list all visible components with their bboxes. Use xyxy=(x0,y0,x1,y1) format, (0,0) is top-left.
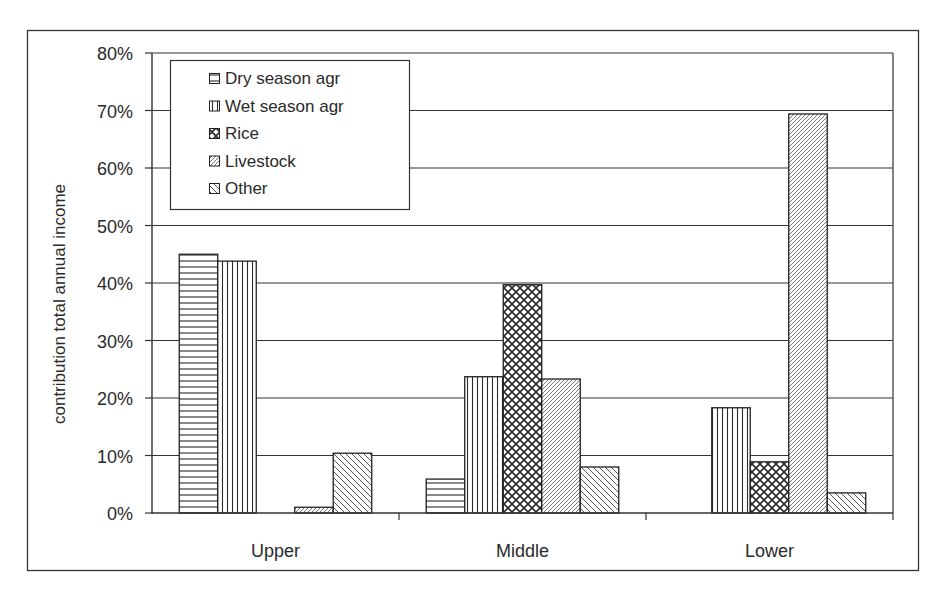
bar-rice-lower xyxy=(750,462,789,513)
y-tick-label: 70% xyxy=(97,102,133,122)
x-category-labels: UpperMiddleLower xyxy=(251,541,794,561)
y-axis-title: contribution total annual income xyxy=(50,184,69,424)
bar-livestock-middle xyxy=(542,379,581,513)
bar-wet-season-agr-middle xyxy=(465,377,504,513)
legend-label: Dry season agr xyxy=(225,69,341,88)
forward-diagonal-swatch-icon xyxy=(210,156,220,166)
y-tick-label: 20% xyxy=(97,389,133,409)
bar-livestock-lower xyxy=(789,114,828,513)
x-category-label: Upper xyxy=(251,541,300,561)
chart-container: 0%10%20%30%40%50%60%70%80% UpperMiddleLo… xyxy=(0,0,940,598)
legend-label: Rice xyxy=(225,124,259,143)
bar-other-lower xyxy=(827,493,866,513)
y-tick-label: 0% xyxy=(107,504,133,524)
legend-label: Wet season agr xyxy=(225,97,344,116)
crosshatch-swatch-icon xyxy=(210,129,220,139)
y-tick-label: 40% xyxy=(97,274,133,294)
legend-label: Other xyxy=(225,179,268,198)
bar-wet-season-agr-lower xyxy=(712,408,751,513)
y-tick-label: 30% xyxy=(97,332,133,352)
backward-diagonal-swatch-icon xyxy=(210,184,220,194)
y-tick-label: 10% xyxy=(97,447,133,467)
bar-chart: 0%10%20%30%40%50%60%70%80% UpperMiddleLo… xyxy=(0,0,940,598)
y-tick-labels: 0%10%20%30%40%50%60%70%80% xyxy=(97,44,133,524)
legend: Dry season agrWet season agrRiceLivestoc… xyxy=(171,61,410,210)
legend-label: Livestock xyxy=(225,152,296,171)
y-tick-label: 80% xyxy=(97,44,133,64)
y-tick-label: 60% xyxy=(97,159,133,179)
bar-wet-season-agr-upper xyxy=(218,261,257,513)
bar-dry-season-agr-middle xyxy=(426,479,465,513)
y-tick-label: 50% xyxy=(97,217,133,237)
bar-other-upper xyxy=(333,453,372,513)
x-category-label: Middle xyxy=(496,541,549,561)
bar-dry-season-agr-upper xyxy=(179,254,218,513)
vertical-hatch-swatch-icon xyxy=(210,101,220,111)
x-category-label: Lower xyxy=(745,541,794,561)
horizontal-hatch-swatch-icon xyxy=(210,74,220,84)
bar-livestock-upper xyxy=(295,507,334,513)
bar-other-middle xyxy=(580,467,619,513)
bar-rice-middle xyxy=(503,285,542,513)
